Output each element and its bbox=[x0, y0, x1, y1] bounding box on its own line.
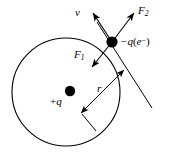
physics-diagram: v F2 F1 −q(e−) r +q bbox=[0, 0, 171, 166]
velocity-label: v bbox=[75, 7, 80, 18]
diagram-canvas bbox=[0, 0, 171, 166]
force-f2-subscript: 2 bbox=[145, 9, 149, 18]
paren-close: ) bbox=[146, 35, 150, 47]
radius-label: r bbox=[97, 83, 101, 94]
center-charge-label: +q bbox=[50, 96, 62, 107]
force-f1-subscript: 1 bbox=[81, 53, 85, 62]
center-charge-dot bbox=[65, 86, 75, 96]
force-f1-label: F1 bbox=[74, 49, 84, 61]
electron-charge-dot bbox=[106, 36, 117, 47]
electron-charge-label: −q(e−) bbox=[120, 36, 150, 47]
radius-extension-line bbox=[82, 114, 96, 131]
force-f2-label: F2 bbox=[138, 5, 148, 17]
center-symbol: q bbox=[56, 95, 62, 107]
